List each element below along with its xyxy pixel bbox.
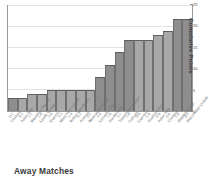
opponent-label-cell: Middlesbrough bbox=[174, 121, 184, 163]
opponent-label-cell: Leeds United bbox=[36, 121, 46, 163]
opponent-label-cell: Leicester City bbox=[95, 121, 105, 163]
opponent-label-cell: Manchester United bbox=[183, 121, 193, 163]
bar bbox=[56, 90, 66, 111]
opponent-label-cell: Everton bbox=[46, 121, 56, 163]
opponent-label-cell: Chelsea bbox=[7, 121, 17, 163]
opponent-label-cell: Fulham bbox=[125, 121, 135, 163]
opponent-label-cell: Aston Villa bbox=[17, 121, 27, 163]
opponent-label-cell: Tottenham Hotspur bbox=[115, 121, 125, 163]
bar bbox=[8, 98, 18, 111]
y-tick-label: 25 bbox=[193, 3, 198, 7]
opponent-label-cell: Newcastle United bbox=[85, 121, 95, 163]
bar bbox=[18, 98, 28, 111]
cumulative-points-chart: 0510152025 Cumulative Points 0-10-11-11-… bbox=[0, 0, 209, 180]
opponent-label-cell: Sunderland bbox=[105, 121, 115, 163]
opponent-label-cell: West Ham United bbox=[56, 121, 66, 163]
opponent-label-cell: Arsenal bbox=[76, 121, 86, 163]
bar bbox=[163, 31, 173, 111]
opponent-label-cell: Liverpool bbox=[134, 121, 144, 163]
opponent-label-cell: Southampton bbox=[144, 121, 154, 163]
opponent-label-cell: Blackburn Rovers bbox=[27, 121, 37, 163]
x-axis-opponent-labels: ChelseaAston VillaBlackburn RoversLeeds … bbox=[7, 121, 193, 163]
bar bbox=[144, 40, 154, 111]
opponent-label-cell: Chelsea bbox=[164, 121, 174, 163]
bar bbox=[115, 52, 125, 111]
bar bbox=[153, 35, 163, 111]
plot-area bbox=[7, 5, 193, 112]
y-axis-title: Cumulative Points bbox=[188, 18, 195, 90]
chart-caption: Away Matches bbox=[14, 166, 74, 176]
opponent-label-cell: Bolton Wanderers bbox=[66, 121, 76, 163]
opponent-label-cell: Aston Villa bbox=[154, 121, 164, 163]
bars-layer bbox=[8, 6, 192, 111]
bar bbox=[173, 19, 183, 111]
